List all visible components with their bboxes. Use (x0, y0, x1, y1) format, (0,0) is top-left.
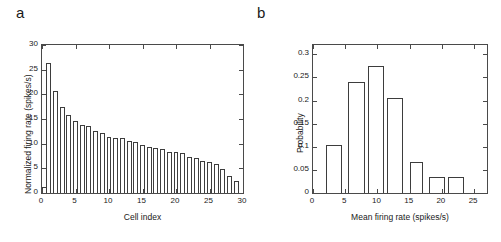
y-tick (42, 144, 46, 145)
bar (387, 98, 403, 193)
bar (326, 145, 342, 193)
bar (214, 164, 219, 193)
y-tick (239, 70, 243, 71)
y-tick (239, 119, 243, 120)
bar (120, 138, 125, 193)
y-tick (239, 144, 243, 145)
bar (80, 125, 85, 193)
bar (107, 137, 112, 193)
panel-b-y-axis-title: Probability (296, 113, 305, 153)
bar (368, 66, 384, 193)
bar (133, 142, 138, 193)
x-tick (176, 189, 177, 193)
y-tick-label: 30 (7, 40, 38, 48)
x-tick (42, 189, 43, 193)
y-tick-label: 25 (7, 65, 38, 73)
panel-b: b 00.050.10.150.20.250.3 0510152025 Mean… (250, 0, 501, 242)
y-tick (483, 77, 487, 78)
bar (348, 82, 364, 193)
x-tick (143, 189, 144, 193)
bar (234, 181, 239, 193)
x-tick (76, 45, 77, 49)
bar (93, 131, 98, 193)
x-tick-label: 25 (194, 197, 224, 205)
y-tick (313, 77, 317, 78)
bar (410, 162, 423, 193)
bar (194, 158, 199, 193)
x-tick-label: 20 (160, 197, 190, 205)
bar (73, 121, 78, 193)
bar (46, 63, 51, 193)
bar (220, 169, 225, 193)
panel-b-plot-area (312, 44, 488, 194)
x-tick-label: 10 (361, 197, 391, 205)
x-tick (474, 189, 475, 193)
y-tick (42, 94, 46, 95)
bar (113, 138, 118, 193)
bar (100, 133, 105, 193)
bar (227, 176, 232, 193)
y-tick (483, 193, 487, 194)
bar (174, 152, 179, 193)
y-tick (483, 170, 487, 171)
x-tick (313, 189, 314, 193)
x-tick (109, 45, 110, 49)
x-tick-label: 5 (329, 197, 359, 205)
bar (140, 145, 145, 193)
x-tick (76, 189, 77, 193)
x-tick (410, 45, 411, 49)
panel-a-y-axis-title: Normalized firing rate (spikes/s) (24, 74, 33, 194)
panel-a: a 051015202530 051015202530 Cell index N… (0, 0, 251, 242)
panel-b-bars (313, 45, 487, 193)
y-tick (239, 168, 243, 169)
y-tick-label: 0.25 (278, 72, 309, 80)
figure-container: a 051015202530 051015202530 Cell index N… (0, 0, 501, 242)
x-tick-label: 10 (93, 197, 123, 205)
panel-a-plot-area (41, 44, 244, 194)
x-tick-label: 15 (127, 197, 157, 205)
x-tick (143, 45, 144, 49)
x-tick (377, 189, 378, 193)
x-tick-label: 0 (26, 197, 56, 205)
bar (160, 149, 165, 193)
y-tick-label: 0 (278, 188, 309, 196)
y-tick (483, 101, 487, 102)
panel-b-label: b (257, 5, 265, 20)
y-tick (239, 94, 243, 95)
x-tick (210, 189, 211, 193)
bar (200, 161, 205, 193)
x-tick-label: 25 (458, 197, 488, 205)
y-tick (42, 193, 46, 194)
panel-b-x-axis-title: Mean firing rate (spikes/s) (312, 213, 488, 222)
x-tick-label: 5 (60, 197, 90, 205)
bar (53, 91, 58, 193)
x-tick (410, 189, 411, 193)
y-tick (313, 170, 317, 171)
bar (127, 141, 132, 193)
panel-a-label: a (16, 5, 24, 20)
bar (66, 115, 71, 193)
bar (153, 148, 158, 193)
y-tick (313, 124, 317, 125)
y-tick-label: 0.2 (278, 96, 309, 104)
x-tick-label: 15 (394, 197, 424, 205)
y-tick (313, 193, 317, 194)
y-tick (313, 147, 317, 148)
y-tick-label: 0.05 (278, 165, 309, 173)
x-tick (474, 45, 475, 49)
bar (187, 157, 192, 193)
y-tick-label: 0.3 (278, 49, 309, 57)
x-tick (42, 45, 43, 49)
x-tick (442, 189, 443, 193)
y-tick (483, 124, 487, 125)
x-tick (377, 45, 378, 49)
x-tick (210, 45, 211, 49)
panel-a-bars (42, 45, 243, 193)
x-tick (442, 45, 443, 49)
y-tick (313, 101, 317, 102)
y-tick (239, 193, 243, 194)
y-tick (42, 70, 46, 71)
x-tick (345, 45, 346, 49)
bar (180, 153, 185, 193)
x-tick (243, 45, 244, 49)
